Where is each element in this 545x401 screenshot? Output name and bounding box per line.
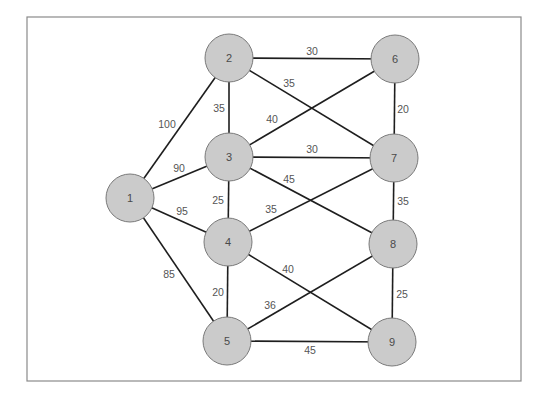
edge-weight-4-5: 20 xyxy=(212,286,224,298)
graph-diagram: 100909585353035403045253540203645203525 … xyxy=(0,0,545,401)
edge-4-7 xyxy=(228,158,394,242)
node-2: 2 xyxy=(205,34,253,82)
nodes-group: 123456789 xyxy=(106,34,419,366)
edge-weight-1-4: 95 xyxy=(176,205,188,217)
node-4: 4 xyxy=(204,218,252,266)
edges-group xyxy=(130,58,395,342)
node-label: 4 xyxy=(225,236,231,248)
edge-weight-2-7: 35 xyxy=(283,77,295,89)
edge-weight-3-7: 30 xyxy=(306,143,318,155)
edge-weight-1-5: 85 xyxy=(163,268,175,280)
edge-weight-1-3: 90 xyxy=(173,162,185,174)
node-6: 6 xyxy=(371,35,419,83)
edge-weight-7-8: 35 xyxy=(397,195,409,207)
edge-weight-8-9: 25 xyxy=(396,288,408,300)
edge-weight-5-9: 45 xyxy=(304,344,316,356)
node-label: 8 xyxy=(390,238,396,250)
edge-weight-3-4: 25 xyxy=(212,194,224,206)
node-label: 6 xyxy=(392,53,398,65)
edge-2-6 xyxy=(229,58,395,59)
edge-weight-5-8: 36 xyxy=(264,299,276,311)
edge-weight-2-6: 30 xyxy=(306,45,318,57)
node-3: 3 xyxy=(205,133,253,181)
edge-weight-1-2: 100 xyxy=(158,118,176,130)
node-label: 9 xyxy=(389,336,395,348)
node-8: 8 xyxy=(369,220,417,268)
edge-weight-6-7: 20 xyxy=(397,103,409,115)
diagram-frame xyxy=(27,17,521,381)
node-label: 3 xyxy=(226,151,232,163)
node-label: 1 xyxy=(127,192,133,204)
edge-weight-2-3: 35 xyxy=(213,102,225,114)
edge-weight-3-6: 40 xyxy=(266,113,278,125)
edge-5-8 xyxy=(227,244,393,341)
node-1: 1 xyxy=(106,174,154,222)
node-label: 5 xyxy=(224,335,230,347)
node-label: 7 xyxy=(391,152,397,164)
edge-weight-4-7: 35 xyxy=(265,203,277,215)
edge-weight-4-9: 40 xyxy=(282,263,294,275)
edge-weight-3-8: 45 xyxy=(283,173,295,185)
edge-5-9 xyxy=(227,341,392,342)
node-7: 7 xyxy=(370,134,418,182)
node-5: 5 xyxy=(203,317,251,365)
node-label: 2 xyxy=(226,52,232,64)
edge-3-7 xyxy=(229,157,394,158)
node-9: 9 xyxy=(368,318,416,366)
